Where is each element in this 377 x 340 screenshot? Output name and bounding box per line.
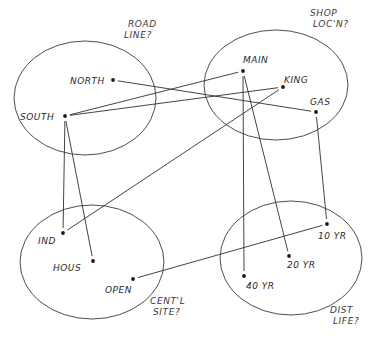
group-note-road: LINE? — [124, 30, 152, 40]
node-label-south: SOUTH — [20, 112, 54, 122]
group-note-road: ROAD — [128, 19, 157, 29]
group-note-life: LIFE? — [333, 316, 359, 326]
diagram-canvas: ROADLINE?SHOPLOC'N?CENT'LSITE?DISTLIFE? … — [0, 0, 377, 340]
node-label-main: MAIN — [243, 55, 268, 65]
node-dot-north — [111, 78, 115, 82]
node-label-yr20: 20 YR — [287, 260, 316, 270]
groups-layer: ROADLINE?SHOPLOC'N?CENT'LSITE?DISTLIFE? — [14, 8, 362, 326]
node-label-north: NORTH — [70, 76, 105, 86]
node-dot-king — [281, 85, 285, 89]
edge-main-yr40 — [243, 76, 244, 271]
node-dot-ind — [61, 231, 65, 235]
node-label-king: KING — [284, 75, 308, 85]
group-note-life: DIST — [330, 305, 354, 315]
edge-king-ind — [67, 90, 279, 230]
edge-main-yr20 — [244, 76, 288, 251]
node-dot-yr40 — [242, 274, 246, 278]
node-label-gas: GAS — [310, 97, 330, 107]
group-note-shop: LOC'N? — [313, 19, 349, 29]
node-dot-gas — [314, 110, 318, 114]
edge-gas-yr10 — [317, 117, 327, 219]
group-note-sites: CENT'L — [150, 296, 185, 306]
node-label-hous: HOUS — [53, 263, 81, 273]
group-ellipse-life — [220, 201, 362, 315]
node-label-yr40: 40 YR — [246, 281, 275, 291]
group-note-shop: SHOP — [310, 8, 337, 18]
edge-south-ind — [63, 121, 65, 228]
edges-layer — [63, 72, 326, 277]
node-dot-hous — [91, 259, 95, 263]
node-dot-main — [241, 69, 245, 73]
group-ellipse-shop — [204, 30, 348, 140]
node-dot-yr20 — [287, 254, 291, 258]
node-dot-open — [131, 277, 135, 281]
concept-map: ROADLINE?SHOPLOC'N?CENT'LSITE?DISTLIFE? … — [0, 0, 377, 340]
node-label-open: OPEN — [105, 285, 132, 295]
edge-south-hous — [66, 121, 92, 256]
group-note-sites: SITE? — [153, 307, 180, 317]
node-label-ind: IND — [38, 236, 56, 246]
node-dot-yr10 — [325, 222, 329, 226]
node-label-yr10: 10 YR — [318, 231, 347, 241]
node-dot-south — [63, 114, 67, 118]
